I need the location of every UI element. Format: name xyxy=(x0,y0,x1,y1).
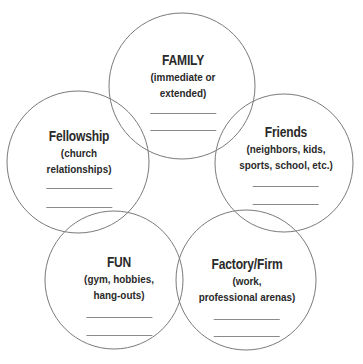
fun-label: FUN (gym, hobbies, hang-outs) xyxy=(78,254,159,336)
friends-blank-line-2[interactable] xyxy=(253,204,319,205)
factory-blank-line-1[interactable] xyxy=(214,319,280,320)
friends-label: Friends (neighbors, kids, sports, school… xyxy=(232,124,341,205)
family-subtitle-2: extended) xyxy=(151,85,216,101)
factory-title: Factory/Firm xyxy=(199,256,296,273)
fellowship-label: Fellowship (church relationships) xyxy=(41,128,116,208)
fellowship-title: Fellowship xyxy=(47,128,112,145)
friends-blank-line-1[interactable] xyxy=(253,186,319,187)
family-blank-line-2[interactable] xyxy=(150,130,216,131)
factory-label: Factory/Firm (work, professional arenas) xyxy=(191,256,303,337)
factory-subtitle-2: professional arenas) xyxy=(199,289,296,305)
factory-blank-line-2[interactable] xyxy=(214,336,280,337)
fellowship-subtitle-2: relationships) xyxy=(47,161,112,177)
factory-subtitle-1: (work, xyxy=(199,273,296,289)
family-subtitle-1: (immediate or xyxy=(151,69,216,85)
fun-blank-line-1[interactable] xyxy=(86,317,152,318)
family-title: FAMILY xyxy=(151,52,216,69)
fun-blank-line-2[interactable] xyxy=(86,335,152,336)
family-label: FAMILY (immediate or extended) xyxy=(145,52,220,131)
fellowship-blank-line-2[interactable] xyxy=(46,207,112,208)
fellowship-blank-line-1[interactable] xyxy=(46,188,112,189)
fellowship-subtitle-1: (church xyxy=(47,145,112,161)
family-blank-line-1[interactable] xyxy=(150,113,216,114)
friends-title: Friends xyxy=(239,124,332,141)
fun-subtitle-2: hang-outs) xyxy=(84,287,154,303)
fun-subtitle-1: (gym, hobbies, xyxy=(84,271,154,287)
friends-subtitle-1: (neighbors, kids, xyxy=(239,141,332,157)
friends-subtitle-2: sports, school, etc.) xyxy=(239,157,332,173)
fun-title: FUN xyxy=(84,254,154,271)
